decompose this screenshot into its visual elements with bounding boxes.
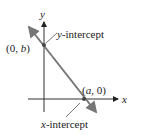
y-axis-label: y	[39, 8, 45, 20]
line-through-intercepts	[29, 27, 52, 56]
x-axis-label: x	[121, 93, 127, 105]
intercepts-diagram: y x (0, b) (a, 0) y-intercept x-intercep…	[0, 0, 141, 138]
x-intercept-leader	[66, 103, 80, 117]
y-intercept-leader	[46, 33, 57, 43]
y-intercept-point	[42, 43, 46, 47]
y-intercept-coord-label: (0, b)	[6, 42, 30, 55]
y-intercept-callout: y-intercept	[56, 28, 104, 40]
x-intercept-point	[82, 97, 86, 101]
x-intercept-callout: x-intercept	[40, 118, 88, 130]
x-intercept-coord-label: (a, 0)	[82, 84, 106, 97]
